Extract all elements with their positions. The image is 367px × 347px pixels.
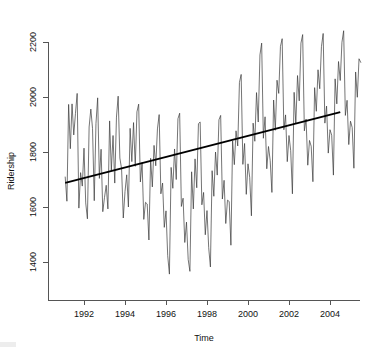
y-axis-title: Ridership (6, 152, 16, 190)
x-tick-label: 2000 (238, 309, 258, 319)
y-tick-label: 1400 (28, 252, 38, 272)
x-tick-label: 1992 (74, 309, 94, 319)
x-axis-title: Time (194, 333, 214, 343)
y-tick-label: 2000 (28, 87, 38, 107)
page-edge-artifact (0, 342, 16, 347)
x-tick-label: 1996 (156, 309, 176, 319)
y-tick-label: 2200 (28, 32, 38, 52)
chart-background (0, 0, 367, 347)
x-tick-label: 2002 (279, 309, 299, 319)
y-tick-label: 1600 (28, 197, 38, 217)
x-tick-label: 2004 (320, 309, 340, 319)
ridership-time-series-chart: 14001600180020002200 1992199419961998200… (0, 0, 367, 347)
x-tick-label: 1994 (115, 309, 135, 319)
y-tick-label: 1800 (28, 142, 38, 162)
chart-plot-area: 14001600180020002200 1992199419961998200… (0, 0, 367, 347)
x-tick-label: 1998 (197, 309, 217, 319)
